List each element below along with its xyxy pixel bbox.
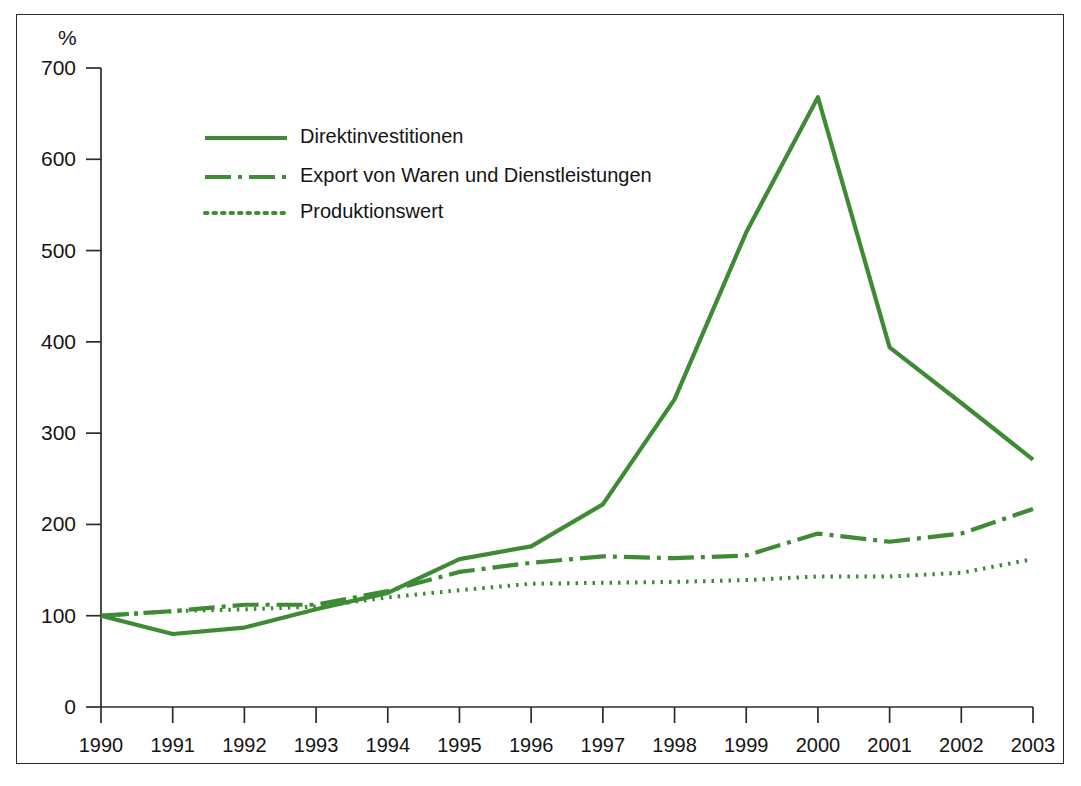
x-tick-label: 1997 <box>581 734 626 756</box>
y-tick-label: 400 <box>41 330 76 353</box>
x-tick-label: 1990 <box>79 734 124 756</box>
x-tick-label: 1999 <box>724 734 769 756</box>
x-tick-label: 2002 <box>939 734 984 756</box>
y-tick-label: 600 <box>41 147 76 170</box>
y-tick-label: 300 <box>41 421 76 444</box>
y-tick-label: 700 <box>41 56 76 79</box>
y-axis-unit-label: % <box>58 26 77 49</box>
x-tick-label: 2000 <box>796 734 841 756</box>
y-tick-label: 500 <box>41 239 76 262</box>
legend-label-1: Direktinvestitionen <box>300 125 463 147</box>
y-tick-label: 200 <box>41 512 76 535</box>
x-tick-label: 1992 <box>222 734 267 756</box>
legend-label-3: Produktionswert <box>300 200 444 222</box>
x-tick-label: 2003 <box>1011 734 1056 756</box>
x-tick-label: 1993 <box>294 734 339 756</box>
x-tick-label: 1994 <box>366 734 411 756</box>
y-axis-ticks: 0100200300400500600700 <box>41 56 101 718</box>
legend-label-2: Export von Waren und Dienstleistungen <box>300 164 652 186</box>
x-tick-label: 1995 <box>437 734 482 756</box>
x-tick-label: 1996 <box>509 734 554 756</box>
chart-legend: DirektinvestitionenExport von Waren und … <box>205 125 652 222</box>
x-tick-label: 2001 <box>867 734 912 756</box>
x-tick-label: 1998 <box>652 734 697 756</box>
line-chart: % 0100200300400500600700 199019911992199… <box>0 0 1081 786</box>
y-tick-label: 100 <box>41 604 76 627</box>
x-tick-label: 1991 <box>150 734 195 756</box>
series-line-3 <box>101 559 1033 616</box>
y-tick-label: 0 <box>64 695 76 718</box>
x-axis-ticks: 1990199119921993199419951996199719981999… <box>79 707 1056 756</box>
chart-page: % 0100200300400500600700 199019911992199… <box>0 0 1081 786</box>
